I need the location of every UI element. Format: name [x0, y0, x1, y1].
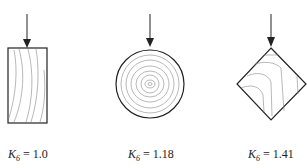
circle-section [116, 14, 184, 118]
arrow-down-icon [267, 37, 275, 47]
arrow-down-icon [146, 38, 154, 47]
rectangle-section [8, 14, 47, 123]
k6-label-circle: K6 = 1.18 [128, 147, 174, 163]
k6-label-rectangle: K6 = 1.0 [8, 147, 48, 163]
k6-label-diamond: K6 = 1.41 [248, 147, 294, 163]
diamond-section [237, 14, 306, 120]
cross-section-diagram [0, 0, 307, 168]
arrow-down-icon [23, 39, 31, 48]
